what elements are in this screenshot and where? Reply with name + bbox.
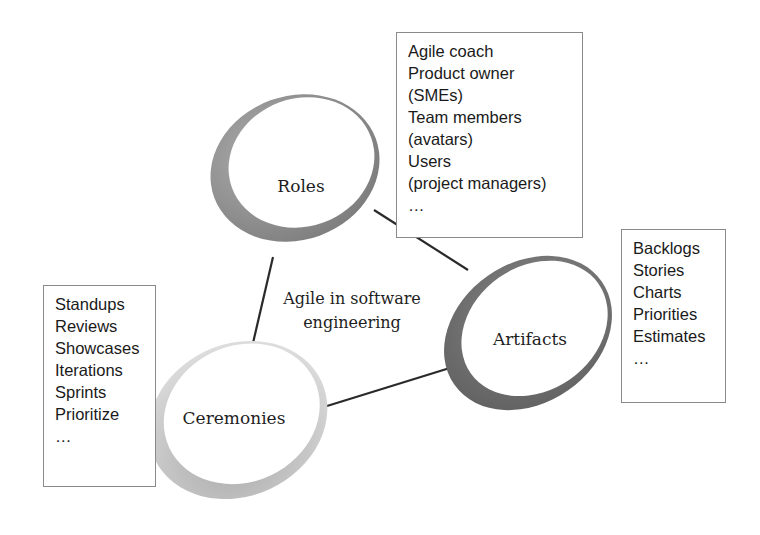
list-item: (project managers)	[408, 172, 574, 194]
list-item: Prioritize	[55, 403, 147, 425]
list-item: Reviews	[55, 315, 147, 337]
list-item: Agile coach	[408, 40, 574, 62]
connector-roles-ceremonies	[253, 257, 273, 343]
list-item: (SMEs)	[408, 84, 574, 106]
list-item: Product owner	[408, 62, 574, 84]
center-label: Agile in software engineering	[283, 287, 421, 335]
list-item: Estimates	[633, 325, 717, 347]
list-item: …	[633, 347, 717, 369]
ceremonies-list-box: Standups Reviews Showcases Iterations Sp…	[43, 285, 156, 487]
list-item: Stories	[633, 259, 717, 281]
list-item: Iterations	[55, 359, 147, 381]
list-item: …	[55, 425, 147, 447]
list-item: Users	[408, 150, 574, 172]
list-item: Backlogs	[633, 237, 717, 259]
list-item: Showcases	[55, 337, 147, 359]
node-label-ceremonies: Ceremonies	[183, 408, 286, 428]
center-label-line-1: Agile in software	[283, 287, 421, 311]
center-label-line-2: engineering	[283, 311, 421, 335]
list-item: Sprints	[55, 381, 147, 403]
list-item: Standups	[55, 293, 147, 315]
list-item: …	[408, 194, 574, 216]
list-item: Charts	[633, 281, 717, 303]
list-item: (avatars)	[408, 128, 574, 150]
node-label-roles: Roles	[277, 176, 324, 196]
agile-diagram: Roles Artifacts Ceremonies Agile in soft…	[0, 0, 760, 535]
list-item: Team members	[408, 106, 574, 128]
list-item: Priorities	[633, 303, 717, 325]
connector-ceremonies-artifacts	[327, 367, 453, 406]
artifacts-list-box: Backlogs Stories Charts Priorities Estim…	[621, 229, 726, 403]
node-label-artifacts: Artifacts	[493, 329, 567, 349]
roles-ring	[190, 71, 401, 265]
roles-list-box: Agile coach Product owner (SMEs) Team me…	[396, 32, 583, 238]
